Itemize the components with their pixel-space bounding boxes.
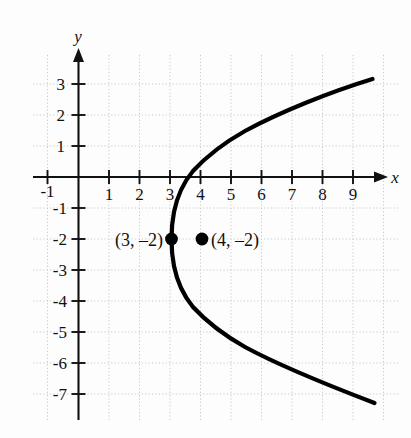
y-tick-label--7: -7 — [53, 385, 68, 404]
point-label-3--2: (3, –2) — [115, 230, 163, 251]
y-axis-label: y — [72, 27, 82, 46]
y-tick-label-3: 3 — [57, 75, 66, 94]
x-tick-label-7: 7 — [288, 185, 297, 204]
x-tick-label-8: 8 — [318, 185, 327, 204]
point-label-4--2: (4, –2) — [211, 230, 259, 251]
coordinate-plane-svg: -1 1 2 3 4 5 6 7 8 9 3 2 1 -1 -2 -3 -4 -… — [0, 0, 411, 438]
x-tick-label-6: 6 — [257, 185, 266, 204]
y-tick-label--3: -3 — [53, 261, 67, 280]
y-tick-label--5: -5 — [53, 323, 67, 342]
x-axis-label: x — [390, 168, 399, 187]
x-tick-label-9: 9 — [349, 185, 358, 204]
x-tick-label-1: 1 — [105, 185, 114, 204]
x-tick-label-3: 3 — [166, 185, 175, 204]
y-tick-label-1: 1 — [57, 137, 66, 156]
y-tick-label--6: -6 — [53, 354, 67, 373]
y-tick-label-2: 2 — [57, 106, 66, 125]
point-marker-3--2 — [165, 233, 178, 246]
x-tick-label-5: 5 — [227, 185, 236, 204]
x-tick-label-4: 4 — [196, 185, 205, 204]
point-marker-4--2 — [196, 233, 209, 246]
y-tick-label--4: -4 — [53, 292, 68, 311]
y-tick-label--2: -2 — [53, 230, 67, 249]
graph-figure: -1 1 2 3 4 5 6 7 8 9 3 2 1 -1 -2 -3 -4 -… — [0, 0, 411, 438]
x-tick-label-2: 2 — [135, 185, 144, 204]
y-tick-label--1: -1 — [53, 199, 67, 218]
